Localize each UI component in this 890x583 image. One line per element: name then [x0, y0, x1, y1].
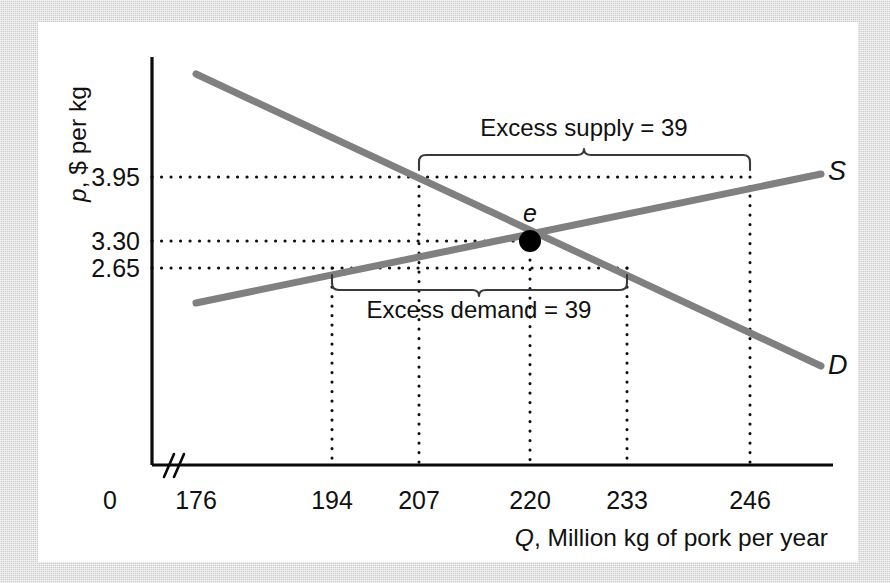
x-axis-title: Q, Million kg of pork per year	[515, 524, 828, 551]
y-tick-label-330: 3.30	[91, 227, 140, 255]
x-axis-tick-labels: 0 176 194 207 220 233 246	[103, 486, 771, 514]
x-axis-title-rest: , Million kg of pork per year	[534, 524, 828, 551]
supply-demand-chart: e S D Excess supply = 39 Excess demand =…	[38, 22, 858, 562]
figure-root: e S D Excess supply = 39 Excess demand =…	[0, 0, 890, 583]
y-tick-label-395: 3.95	[91, 163, 140, 191]
y-axis-tick-labels: 3.95 3.30 2.65	[91, 163, 140, 282]
x-tick-label-0: 0	[103, 486, 117, 514]
y-axis-title: p, $ per kg	[64, 86, 91, 203]
demand-curve-label: D	[828, 350, 848, 380]
x-tick-label-220: 220	[509, 486, 551, 514]
y-axis-title-rest: , $ per kg	[64, 86, 91, 188]
equilibrium-point-label: e	[523, 199, 537, 227]
x-tick-label-176: 176	[175, 486, 217, 514]
equilibrium-point-e	[519, 230, 541, 252]
x-tick-label-194: 194	[311, 486, 353, 514]
y-tick-label-265: 2.65	[91, 254, 140, 282]
excess-demand-label: Excess demand = 39	[367, 296, 592, 323]
plot-panel: e S D Excess supply = 39 Excess demand =…	[38, 22, 858, 562]
excess-demand-brace	[332, 275, 627, 296]
excess-supply-brace	[419, 149, 750, 170]
excess-supply-annotation: Excess supply = 39	[419, 114, 750, 170]
y-axis-title-variable: p	[64, 188, 91, 203]
supply-curve	[196, 174, 821, 303]
supply-curve-label: S	[828, 156, 846, 186]
x-tick-label-246: 246	[729, 486, 771, 514]
x-axis-title-variable: Q	[515, 524, 534, 551]
svg-text:Q, Million kg of pork per year: Q, Million kg of pork per year	[515, 524, 828, 551]
x-tick-label-207: 207	[398, 486, 440, 514]
x-tick-label-233: 233	[606, 486, 648, 514]
excess-demand-annotation: Excess demand = 39	[332, 275, 627, 323]
excess-supply-label: Excess supply = 39	[480, 114, 687, 141]
svg-text:p, $ per kg: p, $ per kg	[64, 86, 91, 203]
